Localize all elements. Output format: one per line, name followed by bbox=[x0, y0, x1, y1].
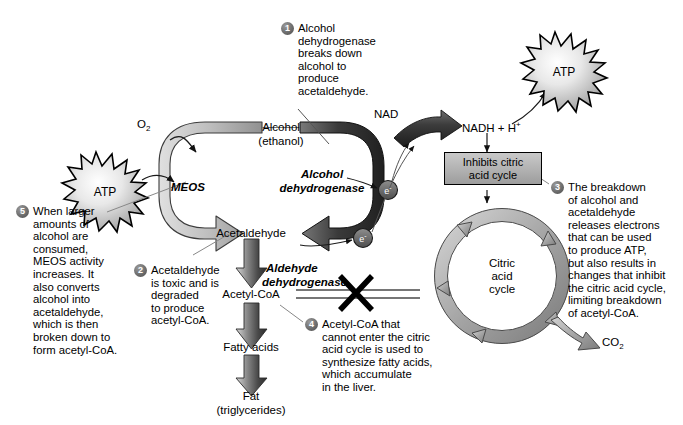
inhibits-line-1: Inhibits citric bbox=[451, 156, 535, 169]
callout-4-text: Acetyl-CoA that cannot enter the citric … bbox=[322, 318, 445, 394]
alcohol-dehydrogenase-label-line1: Alcohol bbox=[301, 168, 343, 181]
nadh-label: NADH + H+ bbox=[462, 118, 521, 135]
callout-5-text: When larger amounts of alcohol are consu… bbox=[33, 205, 126, 356]
aldehyde-dehydrogenase-label-line1: Aldehyde bbox=[266, 262, 318, 275]
callout-3: 3 The breakdown of alcohol and acetaldeh… bbox=[551, 181, 681, 320]
nad-to-nadh-arrow bbox=[394, 110, 462, 147]
nadh-superscript: + bbox=[516, 120, 521, 129]
callout-5-badge: 5 bbox=[16, 205, 29, 218]
callout-4-badge: 4 bbox=[305, 318, 318, 331]
citric-acid-cycle-label: Citric acid cycle bbox=[489, 257, 515, 296]
o2-label: O2 bbox=[137, 118, 150, 135]
citric-line-2: acid bbox=[489, 270, 515, 283]
callout-3-badge: 3 bbox=[551, 181, 564, 194]
nadh-text: NADH + H bbox=[462, 122, 516, 134]
callout-2-text: Acetaldehyde is toxic and is degraded to… bbox=[151, 264, 234, 327]
acetaldehyde-label: Acetaldehyde bbox=[216, 227, 286, 240]
inhibits-line-2: acid cycle bbox=[451, 169, 535, 182]
citric-line-1: Citric bbox=[489, 257, 515, 270]
co2-text: CO bbox=[602, 336, 619, 348]
callout-1: 1 Alcohol dehydrogenase breaks down alco… bbox=[281, 22, 386, 98]
electron-connector-2 bbox=[392, 143, 409, 181]
atp-left-label: ATP bbox=[94, 185, 116, 199]
callout-2: 2 Acetaldehyde is toxic and is degraded … bbox=[134, 264, 234, 327]
citric-line-3: cycle bbox=[489, 283, 515, 296]
nad-label: NAD bbox=[374, 108, 398, 121]
callout-5: 5 When larger amounts of alcohol are con… bbox=[16, 205, 126, 356]
co2-label: CO2 bbox=[602, 336, 624, 353]
meos-label: MEOS bbox=[171, 181, 205, 194]
ethanol-label: (ethanol) bbox=[258, 135, 303, 148]
electron-label-lower: e- bbox=[359, 232, 366, 244]
callout-4: 4 Acetyl-CoA that cannot enter the citri… bbox=[305, 318, 445, 394]
electron-label-upper: e- bbox=[384, 184, 391, 196]
inhibits-citric-acid-cycle-box: Inhibits citric acid cycle bbox=[444, 152, 542, 185]
fatty-acids-label: Fatty acids bbox=[223, 341, 279, 354]
diagram-canvas: O2 ATP ATP MEOS Alcohol (ethanol) Alcoho… bbox=[0, 0, 683, 425]
o2-text: O bbox=[137, 118, 146, 130]
leader-line-4 bbox=[280, 305, 303, 322]
alcohol-dehydrogenase-label-line2: dehydrogenase bbox=[280, 182, 365, 195]
co2-subscript: 2 bbox=[619, 342, 623, 351]
callout-3-text: The breakdown of alcohol and acetaldehyd… bbox=[568, 181, 681, 320]
o2-subscript: 2 bbox=[146, 124, 150, 133]
callout-1-text: Alcohol dehydrogenase breaks down alcoho… bbox=[298, 22, 386, 98]
callout-1-badge: 1 bbox=[281, 22, 294, 35]
alcohol-label: Alcohol bbox=[262, 121, 300, 134]
callout-2-badge: 2 bbox=[134, 264, 147, 277]
atp-right-label: ATP bbox=[553, 65, 575, 79]
triglycerides-label: (triglycerides) bbox=[216, 404, 285, 417]
fat-label: Fat bbox=[243, 390, 260, 403]
